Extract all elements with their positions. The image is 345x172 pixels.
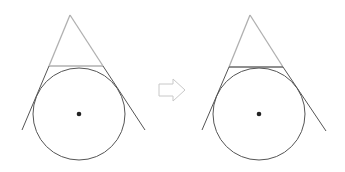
left-tangent-right bbox=[103, 66, 145, 130]
left-triangle-side-left bbox=[49, 15, 70, 66]
right-triangle-side-right bbox=[250, 15, 283, 67]
right-center-dot bbox=[257, 112, 262, 117]
right-figure bbox=[202, 15, 326, 160]
left-triangle-side-right bbox=[70, 15, 103, 66]
right-arrow-icon bbox=[159, 79, 185, 101]
left-figure bbox=[22, 15, 145, 160]
left-center-dot bbox=[77, 112, 82, 117]
diagram-canvas bbox=[0, 0, 345, 172]
right-triangle-side-left bbox=[229, 15, 250, 67]
